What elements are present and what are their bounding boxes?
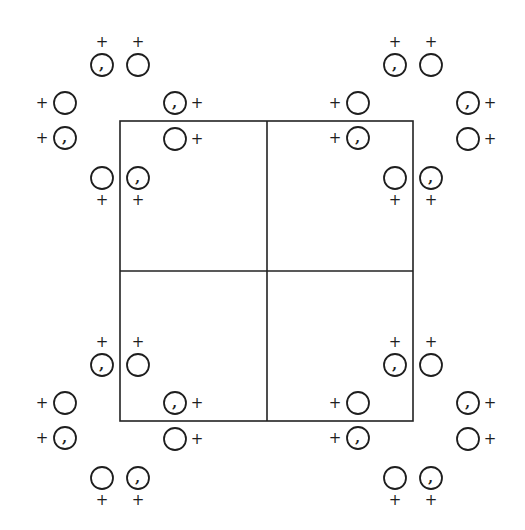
height-sign-plus: +	[484, 394, 497, 412]
comma-mark: ,	[465, 93, 470, 111]
height-sign-plus: +	[484, 94, 497, 112]
height-sign-plus: +	[191, 394, 204, 412]
equivalent-position: ,+	[457, 92, 496, 114]
comma-mark: ,	[392, 355, 397, 373]
comma-mark: ,	[355, 428, 360, 446]
equivalent-position: +	[457, 128, 496, 150]
equivalent-position: +	[164, 128, 203, 150]
circle-icon	[457, 128, 479, 150]
comma-mark: ,	[135, 168, 140, 186]
comma-mark: ,	[135, 468, 140, 486]
height-sign-plus: +	[389, 33, 402, 51]
height-sign-plus: +	[425, 33, 438, 51]
height-sign-plus: +	[425, 191, 438, 209]
equivalent-position: ,+	[164, 92, 203, 114]
symmetry-diagram: ,+++,+,+++,+,+++,+,+++,+,+++,+,+++,+,+++…	[0, 0, 525, 530]
height-sign-plus: +	[36, 94, 49, 112]
height-sign-plus: +	[36, 394, 49, 412]
height-sign-plus: +	[96, 33, 109, 51]
circle-icon	[347, 392, 369, 414]
circle-icon	[127, 354, 149, 376]
comma-mark: ,	[172, 393, 177, 411]
height-sign-plus: +	[329, 429, 342, 447]
height-sign-plus: +	[484, 430, 497, 448]
comma-mark: ,	[465, 393, 470, 411]
height-sign-plus: +	[191, 94, 204, 112]
height-sign-plus: +	[191, 130, 204, 148]
height-sign-plus: +	[132, 333, 145, 351]
circle-icon	[127, 54, 149, 76]
height-sign-plus: +	[132, 191, 145, 209]
height-sign-plus: +	[132, 33, 145, 51]
height-sign-plus: +	[425, 333, 438, 351]
circle-icon	[347, 92, 369, 114]
comma-mark: ,	[392, 55, 397, 73]
circle-icon	[420, 354, 442, 376]
circle-icon	[91, 167, 113, 189]
comma-mark: ,	[62, 428, 67, 446]
background	[0, 0, 525, 530]
height-sign-plus: +	[389, 333, 402, 351]
comma-mark: ,	[99, 355, 104, 373]
height-sign-plus: +	[36, 429, 49, 447]
equivalent-position: +	[457, 428, 496, 450]
circle-icon	[164, 128, 186, 150]
circle-icon	[164, 428, 186, 450]
comma-mark: ,	[428, 468, 433, 486]
height-sign-plus: +	[389, 491, 402, 509]
height-sign-plus: +	[132, 491, 145, 509]
height-sign-plus: +	[329, 394, 342, 412]
comma-mark: ,	[99, 55, 104, 73]
height-sign-plus: +	[425, 491, 438, 509]
height-sign-plus: +	[329, 94, 342, 112]
equivalent-position: ,+	[457, 392, 496, 414]
circle-icon	[384, 467, 406, 489]
circle-icon	[91, 467, 113, 489]
equivalent-position: ,+	[164, 392, 203, 414]
equivalent-position: +	[164, 428, 203, 450]
height-sign-plus: +	[484, 130, 497, 148]
height-sign-plus: +	[389, 191, 402, 209]
height-sign-plus: +	[96, 333, 109, 351]
circle-icon	[54, 92, 76, 114]
comma-mark: ,	[62, 128, 67, 146]
circle-icon	[54, 392, 76, 414]
comma-mark: ,	[355, 128, 360, 146]
height-sign-plus: +	[191, 430, 204, 448]
circle-icon	[420, 54, 442, 76]
height-sign-plus: +	[329, 129, 342, 147]
comma-mark: ,	[172, 93, 177, 111]
height-sign-plus: +	[96, 491, 109, 509]
circle-icon	[457, 428, 479, 450]
height-sign-plus: +	[36, 129, 49, 147]
height-sign-plus: +	[96, 191, 109, 209]
comma-mark: ,	[428, 168, 433, 186]
circle-icon	[384, 167, 406, 189]
